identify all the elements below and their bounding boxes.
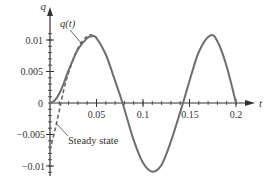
x-tick-label: 0.1 bbox=[137, 109, 150, 120]
steady-state-label: Steady state bbox=[68, 135, 119, 146]
steady-leader-line bbox=[56, 123, 68, 136]
q-leader-line bbox=[70, 30, 82, 44]
y-tick-label: 0.01 bbox=[26, 35, 44, 46]
x-axis-title: t bbox=[259, 97, 263, 109]
y-tick-label: 0.005 bbox=[21, 66, 44, 77]
x-tick-label: 0.2 bbox=[230, 109, 243, 120]
q-label: q(t) bbox=[60, 18, 76, 30]
chart: q t 0.01 0.005 0 −0.005 −0.01 0.05 0.1 0… bbox=[0, 0, 271, 181]
y-tick-label: 0 bbox=[38, 98, 43, 109]
x-tick-label: 0.15 bbox=[181, 109, 199, 120]
y-tick-label: −0.01 bbox=[22, 161, 45, 172]
x-tick-label: 0.05 bbox=[88, 109, 106, 120]
y-axis-title: q bbox=[41, 0, 47, 12]
y-axis-arrow-icon bbox=[47, 7, 53, 16]
x-axis-arrow-icon bbox=[245, 100, 255, 106]
steady-state-curve bbox=[50, 35, 97, 151]
y-tick-label: −0.005 bbox=[17, 129, 45, 140]
